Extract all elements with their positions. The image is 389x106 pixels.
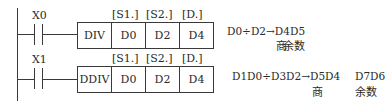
remainder-label: 余数 (283, 37, 305, 53)
instruction-block[interactable]: DDIV D0 D2 D4 (77, 66, 214, 93)
remainder-register: D7D6 (355, 70, 385, 82)
operand-d: D4 (180, 67, 213, 92)
operand-header-s1: [S1.] (112, 9, 139, 21)
left-power-rail (17, 8, 18, 101)
wire (17, 79, 34, 80)
wire (17, 34, 34, 35)
instruction-block[interactable]: DIV D0 D2 D4 (77, 22, 214, 49)
formula: D1D0÷D3D2→D5D4 (232, 70, 340, 82)
operand-s1: D0 (112, 67, 146, 92)
operand-d: D4 (180, 23, 213, 48)
operand-s2: D2 (146, 67, 180, 92)
operand-header-d: [D.] (182, 53, 203, 65)
instruction-mnemonic: DDIV (78, 67, 112, 92)
operand-s1: D0 (112, 23, 146, 48)
contact-label: X0 (32, 10, 47, 22)
wire (43, 34, 77, 35)
remainder-register: D5 (290, 25, 305, 37)
quotient-label: 商 (312, 83, 323, 99)
operand-header-s2: [S2.] (146, 53, 173, 65)
wire (43, 79, 77, 80)
formula: D0÷D2→D4 (227, 25, 290, 37)
instruction-mnemonic: DIV (78, 23, 112, 48)
operand-header-s2: [S2.] (146, 9, 173, 21)
remainder-label: 余数 (355, 83, 377, 99)
operand-header-d: [D.] (182, 9, 203, 21)
operand-header-s1: [S1.] (112, 53, 139, 65)
contact-label: X1 (32, 54, 47, 66)
operand-s2: D2 (146, 23, 180, 48)
